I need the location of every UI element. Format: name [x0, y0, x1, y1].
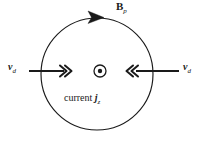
magnetic-field-label: Bp	[116, 1, 127, 15]
current-subscript: z	[98, 98, 101, 106]
current-word: current	[64, 92, 92, 103]
left-drift-velocity-label: vd	[8, 62, 16, 75]
current-label: current jz	[64, 93, 100, 106]
right-velocity-subscript: d	[187, 67, 191, 75]
field-direction-arrowhead	[88, 11, 104, 24]
diagram-canvas	[0, 0, 202, 143]
current-out-of-page-icon	[94, 65, 106, 77]
field-subscript: p	[123, 7, 127, 15]
right-drift-velocity-label: vd	[183, 62, 191, 75]
left-velocity-subscript: d	[12, 67, 16, 75]
magnetic-field-diagram: Bp vd vd current jz	[0, 0, 202, 143]
